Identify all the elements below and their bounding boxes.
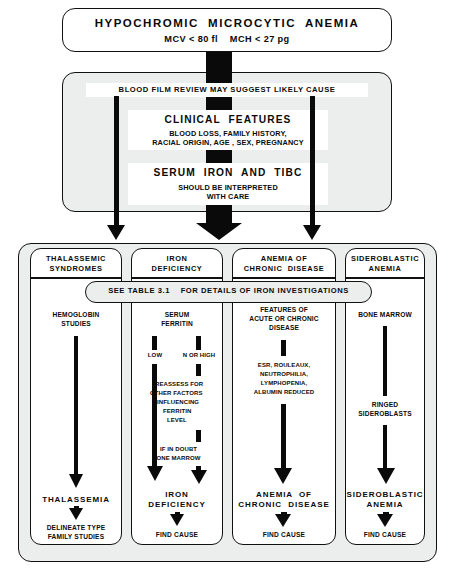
column-sideroblastic-header-line2: ANEMIA xyxy=(345,265,425,274)
thalassemic-final-arrow-shaft xyxy=(74,506,79,510)
iron-final-line1: FIND CAUSE xyxy=(131,531,223,539)
iron-high-arrow-head xyxy=(191,470,207,484)
iron-result-line2: DEFICIENCY xyxy=(131,500,223,509)
iron-branch-high-label: N OR HIGH xyxy=(176,352,222,359)
clinical-features-line2: RACIAL ORIGIN, AGE , SEX, PREGNANCY xyxy=(128,139,328,148)
sideroblastic-result-line1: SIDEROBLASTIC xyxy=(343,490,427,499)
sideroblastic-arrow-head xyxy=(377,468,395,484)
sideroblastic-findings-line2: SIDEROBLASTS xyxy=(343,410,427,418)
figure-caption-remnant xyxy=(0,570,453,578)
connector-title-to-middle xyxy=(206,52,232,74)
chronic-arrow-shaft xyxy=(281,404,286,470)
chronic-connector-1 xyxy=(281,340,286,356)
chronic-findings-line3: LYMPHOPENIA, xyxy=(232,380,336,387)
arrow-left-head xyxy=(107,225,125,240)
column-iron-header-line1: IRON xyxy=(131,255,223,264)
connector-left-branch xyxy=(114,96,119,214)
chronic-findings-line1: ESR, ROULEAUX, xyxy=(232,362,336,369)
iron-high-arrow-shaft2 xyxy=(196,430,201,442)
iron-high-arrow-stub2 xyxy=(196,364,201,376)
column-sideroblastic-header-line1: SIDEROBLASTIC xyxy=(343,255,427,264)
column-thalassemic-header-line1: THALASSEMIC xyxy=(30,255,122,264)
flowchart-canvas: HYPOCHROMIC MICROCYTIC ANEMIA MCV < 80 f… xyxy=(0,0,453,578)
thalassemic-final-line1: DELINEATE TYPE xyxy=(30,524,122,532)
iron-reassess-line1: REASSESS FOR xyxy=(155,381,243,388)
connector-right-branch xyxy=(310,96,315,214)
thalassemic-final-line2: FAMILY STUDIES xyxy=(30,533,122,541)
chronic-test-line2: ACUTE OR CHRONIC xyxy=(232,315,336,323)
chronic-findings-line2: NEUTROPHILIA, xyxy=(232,371,336,378)
iron-low-arrow-shaft xyxy=(152,364,157,468)
arrow-center-head xyxy=(196,223,242,240)
clinical-features-heading: CLINICAL FEATURES xyxy=(128,114,328,126)
column-iron-header-divider xyxy=(132,277,222,279)
serum-iron-heading: SERUM IRON AND TIBC xyxy=(128,167,328,179)
sideroblastic-final-line1: FIND CAUSE xyxy=(345,531,425,539)
chronic-result-line1: ANEMIA OF xyxy=(232,490,336,499)
iron-test-line2: FERRITIN xyxy=(131,320,223,328)
serum-iron-line2: WITH CARE xyxy=(128,193,328,202)
sideroblastic-arrow-shaft xyxy=(383,425,387,470)
sideroblastic-findings-line1: RINGED xyxy=(345,401,425,409)
chronic-findings-line4: ALBUMIN REDUCED xyxy=(232,389,336,396)
iron-low-arrow-head xyxy=(147,466,163,481)
iron-final-arrow-head xyxy=(170,514,184,526)
arrow-right-head xyxy=(303,225,321,240)
column-chronic-header-line1: ANEMIA OF xyxy=(232,255,336,264)
thalassemic-test-line2: STUDIES xyxy=(30,320,122,328)
chronic-final-line1: FIND CAUSE xyxy=(232,531,336,539)
column-chronic-header-divider xyxy=(233,277,335,279)
diagnosis-criteria: MCV < 80 fl MCH < 27 pg xyxy=(62,34,392,45)
thalassemic-arrow-head xyxy=(69,474,83,488)
see-table-band-label: SEE TABLE 3.1 FOR DETAILS OF IRON INVEST… xyxy=(85,287,372,296)
iron-reassess-line4: FERRITIN xyxy=(163,408,243,415)
column-thalassemic-header-divider xyxy=(31,277,121,279)
iron-result-line1: IRON xyxy=(131,490,223,499)
diagnosis-title: HYPOCHROMIC MICROCYTIC ANEMIA xyxy=(62,17,392,31)
chronic-test-line3: DISEASE xyxy=(232,324,336,332)
chronic-final-arrow-head xyxy=(275,514,291,527)
thalassemic-result: THALASSEMIA xyxy=(30,495,122,504)
blood-film-band-label: BLOOD FILM REVIEW MAY SUGGEST LIKELY CAU… xyxy=(86,86,368,95)
iron-test-line1: SERUM xyxy=(131,311,223,319)
chronic-result-line2: CHRONIC DISEASE xyxy=(232,500,336,509)
sideroblastic-connector-1 xyxy=(383,326,387,396)
chronic-arrow-head xyxy=(274,468,292,484)
column-thalassemic-header-line2: SYNDROMES xyxy=(30,265,122,274)
iron-branch-high-stub xyxy=(196,336,201,350)
column-sideroblastic-header-divider xyxy=(346,277,424,279)
iron-branch-low-stub xyxy=(152,336,157,350)
thalassemic-arrow-shaft xyxy=(74,336,78,476)
thalassemic-test-line1: HEMOGLOBIN xyxy=(30,311,122,319)
chronic-test-line1: FEATURES OF xyxy=(232,306,336,314)
iron-branch-low-label: LOW xyxy=(133,352,177,359)
sideroblastic-final-arrow-head xyxy=(377,514,393,527)
sideroblastic-test-line1: BONE MARROW xyxy=(343,311,427,319)
column-iron-header-line2: DEFICIENCY xyxy=(131,265,223,274)
column-chronic-header-line2: CHRONIC DISEASE xyxy=(232,265,336,274)
sideroblastic-result-line2: ANEMIA xyxy=(345,500,425,509)
